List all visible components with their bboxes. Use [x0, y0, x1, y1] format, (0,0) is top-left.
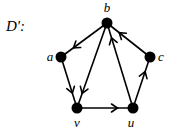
graph-title: D': [5, 18, 25, 34]
node-u [128, 103, 139, 114]
node-a [56, 52, 67, 63]
edge-a-v [61, 57, 77, 108]
node-c [145, 52, 156, 63]
node-label-a: a [47, 49, 54, 64]
node-label-b: b [104, 0, 111, 15]
edge-b-a [61, 23, 107, 57]
node-label-v: v [74, 115, 80, 130]
node-label-u: u [128, 115, 135, 130]
node-b [102, 18, 113, 29]
node-label-c: c [158, 49, 164, 64]
node-v [72, 103, 83, 114]
edge-u-c [133, 57, 150, 108]
edge-b-v [77, 23, 107, 108]
directed-graph: D': bacvu [0, 0, 177, 133]
edges-group [61, 23, 150, 112]
